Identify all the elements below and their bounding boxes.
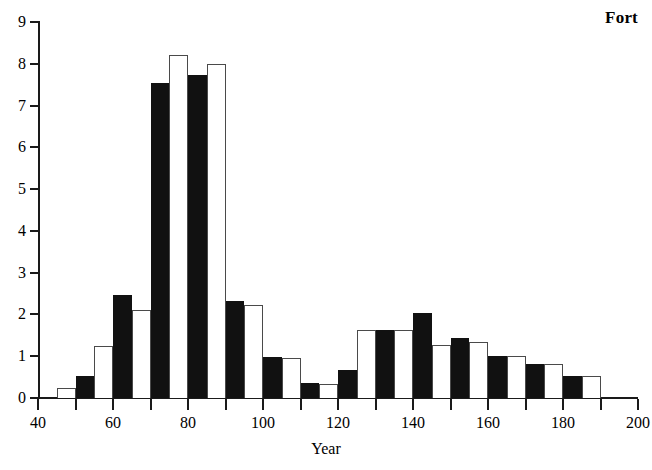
- y-axis-tick-label: 9: [0, 14, 26, 30]
- y-axis-tick-label: 1: [0, 348, 26, 364]
- x-axis-tick: [412, 399, 414, 410]
- y-axis-tick-label: 6: [0, 139, 26, 155]
- histogram-bar: [113, 295, 132, 398]
- bottom-caption: [8, 463, 644, 470]
- histogram-bar: [94, 346, 113, 398]
- x-axis-tick: [150, 399, 152, 410]
- histogram-bar: [226, 301, 245, 398]
- x-axis-tick: [75, 399, 77, 410]
- x-axis-tick: [562, 399, 564, 410]
- histogram-bar: [563, 376, 582, 398]
- histogram-bar: [132, 310, 151, 398]
- histogram-bar: [451, 338, 470, 398]
- x-axis-label: Year: [0, 440, 652, 458]
- x-axis-tick: [262, 399, 264, 410]
- histogram-bar: [507, 356, 526, 398]
- x-axis-tick: [187, 399, 189, 410]
- histogram-bar: [169, 55, 188, 398]
- x-axis-tick-label: 120: [310, 414, 366, 432]
- histogram-bar: [319, 384, 338, 398]
- histogram-bar: [432, 345, 451, 398]
- histogram-bar: [188, 75, 207, 398]
- histogram-bar: [76, 376, 95, 398]
- histogram-bar: [263, 357, 282, 398]
- x-axis-tick-label: 140: [385, 414, 441, 432]
- histogram-bar: [244, 305, 263, 398]
- y-axis-tick-label: 8: [0, 56, 26, 72]
- x-axis-tick: [37, 399, 39, 410]
- x-axis-tick-label: 80: [160, 414, 216, 432]
- plot-area: [38, 22, 638, 398]
- histogram-bar: [282, 358, 301, 398]
- histogram-bar: [582, 376, 601, 398]
- y-axis-tick-label: 5: [0, 181, 26, 197]
- histogram-bar: [376, 330, 395, 398]
- x-axis-tick: [487, 399, 489, 410]
- x-axis-tick-label: 180: [535, 414, 591, 432]
- x-axis-tick-label: 200: [610, 414, 652, 432]
- x-axis-tick-label: 100: [235, 414, 291, 432]
- histogram-bar: [338, 370, 357, 398]
- histogram-bar: [151, 83, 170, 398]
- x-axis-tick: [300, 399, 302, 410]
- y-axis-tick-label: 7: [0, 98, 26, 114]
- x-axis-tick-label: 60: [85, 414, 141, 432]
- x-axis-tick: [525, 399, 527, 410]
- x-axis-tick: [637, 399, 639, 410]
- histogram-bar: [57, 388, 76, 398]
- histogram-bar: [544, 364, 563, 398]
- histogram-bar: [207, 64, 226, 398]
- x-axis-tick: [112, 399, 114, 410]
- y-axis-tick-label: 2: [0, 306, 26, 322]
- y-axis-tick-label: 0: [0, 390, 26, 406]
- histogram-bar: [469, 342, 488, 398]
- x-axis-tick: [450, 399, 452, 410]
- histogram-bar: [488, 356, 507, 398]
- x-axis-tick: [375, 399, 377, 410]
- x-axis-tick: [337, 399, 339, 410]
- histogram-bar: [357, 330, 376, 398]
- histogram-chart: Fort 0123456789 406080100120140160180200…: [0, 0, 652, 470]
- x-axis-tick: [600, 399, 602, 410]
- histogram-bar: [394, 330, 413, 398]
- x-axis-tick-label: 160: [460, 414, 516, 432]
- x-axis-tick: [225, 399, 227, 410]
- y-axis-tick-label: 4: [0, 223, 26, 239]
- y-axis-tick-label: 3: [0, 265, 26, 281]
- x-axis-tick-label: 40: [10, 414, 66, 432]
- histogram-bar: [413, 313, 432, 398]
- histogram-bar: [526, 364, 545, 398]
- histogram-bar: [301, 383, 320, 398]
